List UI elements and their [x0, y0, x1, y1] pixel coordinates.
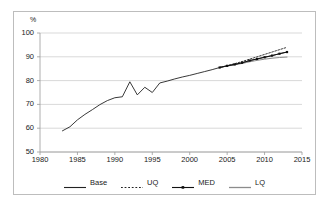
- legend-entry-base[interactable]: Base: [64, 178, 107, 187]
- series-line-base: [62, 52, 287, 131]
- legend-label: Base: [90, 178, 107, 187]
- series-marker-med: [226, 65, 228, 67]
- chart-figure: % 1009080706050 198019851990199520002005…: [0, 0, 329, 203]
- series-marker-med: [286, 51, 288, 53]
- legend-swatch-base-icon: [64, 178, 86, 187]
- plot-area: [0, 0, 329, 203]
- series-line-med: [220, 52, 287, 67]
- series-line-lq: [220, 57, 287, 67]
- series-marker-med: [256, 58, 258, 60]
- legend-swatch-med-icon: [172, 178, 194, 187]
- legend-entry-lq[interactable]: LQ: [229, 178, 265, 187]
- series-marker-med: [241, 62, 243, 64]
- series-marker-med: [263, 56, 265, 58]
- series-marker-med: [271, 55, 273, 57]
- legend-entry-uq[interactable]: UQ: [121, 178, 158, 187]
- legend-swatch-lq-icon: [229, 178, 251, 187]
- legend-entry-med[interactable]: MED: [172, 178, 215, 187]
- legend-label: UQ: [147, 178, 158, 187]
- legend-label: LQ: [255, 178, 265, 187]
- series-marker-med: [249, 60, 251, 62]
- series-marker-med: [278, 53, 280, 55]
- series-marker-med: [219, 66, 221, 68]
- legend-swatch-uq-icon: [121, 178, 143, 187]
- chart-legend: BaseUQMEDLQ: [18, 175, 311, 189]
- legend-label: MED: [198, 178, 215, 187]
- series-marker-med: [234, 63, 236, 65]
